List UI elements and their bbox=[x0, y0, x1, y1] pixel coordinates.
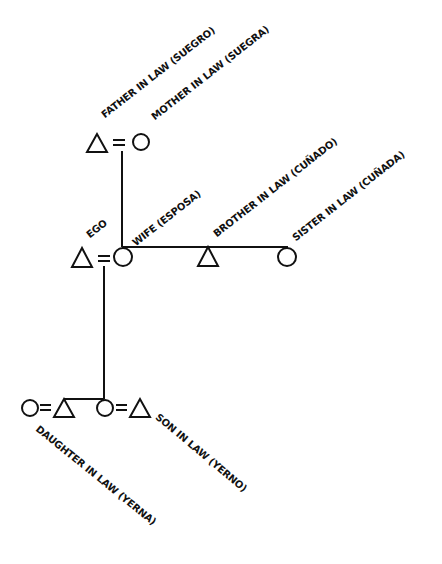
brother-in-law-triangle-icon bbox=[198, 247, 218, 266]
kinship-diagram: FATHER IN LAW (SUEGRO) MOTHER IN LAW (SU… bbox=[0, 0, 442, 564]
mother-in-law-circle-icon bbox=[133, 134, 149, 150]
kinship-lines bbox=[0, 0, 442, 564]
wife-circle-icon bbox=[114, 248, 132, 266]
ego-marriage-equals bbox=[98, 256, 110, 261]
father-in-law-triangle-icon bbox=[87, 134, 107, 152]
sister-in-law-circle-icon bbox=[278, 248, 296, 266]
son-triangle-icon bbox=[54, 399, 74, 417]
daughter-circle-icon bbox=[97, 400, 113, 416]
ego-triangle-icon bbox=[72, 248, 92, 267]
son-marriage-equals bbox=[40, 405, 51, 410]
son-in-law-triangle-icon bbox=[130, 399, 150, 417]
daughter-in-law-circle-icon bbox=[22, 400, 38, 416]
top-marriage-equals bbox=[113, 140, 125, 145]
daughter-marriage-equals bbox=[116, 405, 127, 410]
